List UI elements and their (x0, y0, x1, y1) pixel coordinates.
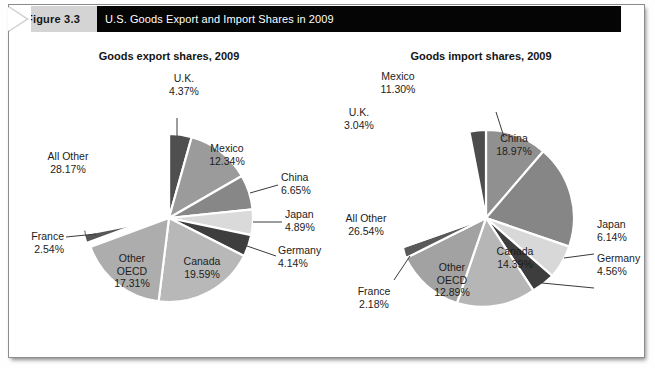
label-mexico: Mexico 11.30% (365, 70, 431, 95)
label-uk-pct: 4.37% (154, 85, 214, 98)
label-japan-pct: 6.14% (597, 231, 641, 244)
label-other-oecd-line1: Other (422, 261, 482, 274)
label-france-name: France (346, 285, 402, 298)
label-other-oecd: Other OECD 12.89% (422, 261, 482, 299)
label-canada-name: Canada (484, 245, 546, 258)
label-china-pct: 6.65% (281, 184, 325, 197)
label-all-other: All Other 26.54% (332, 212, 400, 237)
slice-all-other (85, 134, 169, 234)
label-mexico-name: Mexico (365, 70, 431, 83)
label-canada-name: Canada (171, 255, 233, 268)
label-uk-name: U.K. (330, 106, 388, 119)
leader-germany (542, 283, 594, 288)
label-japan-pct: 4.89% (285, 221, 329, 234)
label-france-pct: 2.18% (346, 298, 402, 311)
chevron-right-icon (9, 6, 31, 32)
label-all-other-name: All Other (34, 150, 102, 163)
label-mexico-name: Mexico (194, 142, 260, 155)
figure-container: Figure 3.3 U.S. Goods Export and Import … (0, 0, 655, 368)
label-canada: Canada 19.59% (171, 255, 233, 280)
label-mexico-pct: 11.30% (365, 83, 431, 96)
label-japan-name: Japan (285, 208, 329, 221)
label-other-oecd: Other OECD 17.31% (103, 252, 161, 290)
label-japan-name: Japan (597, 218, 641, 231)
leader-china (250, 185, 278, 193)
label-mexico: Mexico 12.34% (194, 142, 260, 167)
label-uk: U.K. 4.37% (154, 72, 214, 97)
label-germany: Germany 4.56% (597, 252, 649, 277)
label-uk: U.K. 3.04% (330, 106, 388, 131)
label-other-oecd-pct: 17.31% (103, 277, 161, 290)
label-germany-name: Germany (278, 244, 330, 257)
label-germany-pct: 4.14% (278, 257, 330, 270)
label-canada: Canada 14.39% (484, 245, 546, 270)
label-france-pct: 2.54% (14, 243, 64, 256)
goods-export-pie-chart: Goods export shares, 2009 (14, 40, 324, 350)
label-china: China 6.65% (281, 171, 325, 196)
label-germany-pct: 4.56% (597, 265, 649, 278)
label-france: France 2.18% (346, 285, 402, 310)
leader-germany (247, 246, 276, 256)
label-other-oecd-line2: OECD (103, 265, 161, 278)
label-germany: Germany 4.14% (278, 244, 330, 269)
label-france-name: France (14, 230, 64, 243)
goods-import-pie-chart: Goods import shares, 2009 (326, 40, 636, 350)
figure-title: U.S. Goods Export and Import Shares in 2… (105, 6, 334, 32)
label-uk-name: U.K. (154, 72, 214, 85)
label-china-name: China (281, 171, 325, 184)
label-china: China 18.97% (486, 132, 542, 157)
label-japan: Japan 4.89% (285, 208, 329, 233)
label-other-oecd-line2: OECD (422, 274, 482, 287)
label-all-other-name: All Other (332, 212, 400, 225)
label-germany-name: Germany (597, 252, 649, 265)
label-canada-pct: 19.59% (171, 268, 233, 281)
label-china-pct: 18.97% (486, 145, 542, 158)
label-all-other-pct: 28.17% (34, 163, 102, 176)
label-china-name: China (486, 132, 542, 145)
label-other-oecd-line1: Other (103, 252, 161, 265)
label-france: France 2.54% (14, 230, 64, 255)
label-canada-pct: 14.39% (484, 258, 546, 271)
label-all-other-pct: 26.54% (332, 225, 400, 238)
leader-france (394, 256, 410, 280)
leader-japan (564, 254, 594, 258)
label-japan: Japan 6.14% (597, 218, 641, 243)
label-other-oecd-pct: 12.89% (422, 286, 482, 299)
label-uk-pct: 3.04% (330, 119, 388, 132)
label-mexico-pct: 12.34% (194, 155, 260, 168)
label-all-other: All Other 28.17% (34, 150, 102, 175)
figure-number-label: Figure 3.3 (26, 13, 80, 25)
